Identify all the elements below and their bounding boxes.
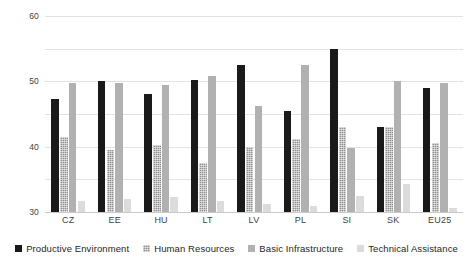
bar [394,81,402,212]
bar [347,148,355,212]
bar [449,208,457,212]
bar-group [417,16,463,212]
bar [98,81,106,212]
bar [115,83,123,212]
legend-swatch-icon [143,245,150,252]
bar [208,76,216,212]
bar [170,197,178,212]
y-axis-tick-label: 40 [29,142,45,152]
gridline: 0 [45,212,463,213]
bar [124,199,132,212]
bar [403,184,411,212]
bar [301,65,309,212]
x-axis-tick-label: EU25 [417,215,463,225]
x-axis-tick-label: LV [231,215,277,225]
bar-chart: 0102030405060 CZEEHULTLVPLSISKEU25 Produ… [0,0,473,266]
bar [356,196,364,212]
bar-group [324,16,370,212]
bar [237,65,245,212]
legend-item[interactable]: Human Resources [143,243,234,254]
bar [153,145,161,212]
bar [423,88,431,212]
bar [292,139,300,213]
chart-legend: Productive EnvironmentHuman ResourcesBas… [0,243,473,254]
y-axis-tick-label: 60 [29,11,45,21]
bar [284,111,292,212]
bar [432,143,440,212]
bar [310,206,318,212]
legend-label: Technical Assistance [368,243,458,254]
bar [263,204,271,212]
bar [78,201,86,212]
bar [246,147,254,212]
legend-item[interactable]: Technical Assistance [357,243,458,254]
bar [385,127,393,212]
bar-group [45,16,91,212]
y-axis-tick-label: 30 [29,207,45,217]
x-axis-tick-label: PL [277,215,323,225]
y-axis-tick-label: 50 [29,76,45,86]
x-axis-tick-label: HU [138,215,184,225]
bar [440,83,448,212]
x-axis-labels: CZEEHULTLVPLSISKEU25 [45,215,463,225]
x-axis-tick-label: SI [324,215,370,225]
legend-label: Human Resources [154,243,234,254]
bar [255,106,263,212]
x-axis-tick-label: EE [91,215,137,225]
legend-swatch-icon [357,245,364,252]
plot-area: 0102030405060 [45,16,463,212]
bar-group [277,16,323,212]
bar [199,163,207,212]
legend-label: Basic Infrastructure [259,243,343,254]
x-axis-tick-label: CZ [45,215,91,225]
bar-group [91,16,137,212]
x-axis-tick-label: SK [370,215,416,225]
legend-swatch-icon [248,245,255,252]
legend-item[interactable]: Basic Infrastructure [248,243,343,254]
bar [107,150,115,212]
bar [144,94,152,212]
bar-groups [45,16,463,212]
bar [51,99,59,212]
legend-label: Productive Environment [26,243,129,254]
bar [162,85,170,212]
x-axis-tick-label: LT [184,215,230,225]
bar-group [231,16,277,212]
bar [60,137,68,212]
bar [69,83,77,212]
bar-group [370,16,416,212]
bar-group [138,16,184,212]
legend-swatch-icon [15,245,22,252]
bar [339,127,347,212]
bar [330,49,338,212]
legend-item[interactable]: Productive Environment [15,243,129,254]
bar-group [184,16,230,212]
bar [191,80,199,212]
bar [217,201,225,212]
bar [377,127,385,212]
